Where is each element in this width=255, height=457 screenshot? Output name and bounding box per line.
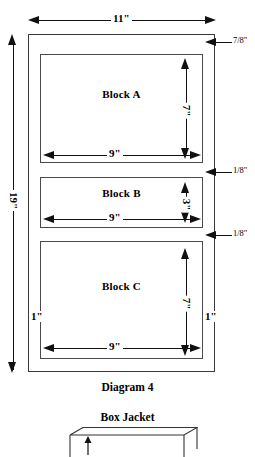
arrowhead-up-block-b-height [181, 182, 189, 193]
arrowhead-left-gap-b-c [205, 231, 216, 239]
dim-label-side-left: 1" [29, 311, 45, 322]
arrowhead-up-overall-height [8, 34, 16, 45]
block-a: Block A [40, 54, 203, 163]
dim-label-gap-b-c: 1/8" [232, 229, 248, 238]
dim-label-overall-width: 11" [111, 13, 132, 24]
leader-line-gap-b-c [215, 235, 232, 236]
dim-label-side-right: 1" [203, 311, 219, 322]
diagram-caption: Diagram 4 [0, 381, 255, 393]
dim-label-top-gap: 7/8" [232, 36, 248, 45]
dim-label-block-b-width: 9" [107, 212, 123, 223]
box-jacket-3d-illustration [58, 427, 198, 457]
box-jacket-caption: Box Jacket [0, 411, 255, 423]
arrowhead-left-block-a-width [43, 151, 54, 159]
arrowhead-down-overall-height [8, 362, 16, 373]
leader-line-gap-a-b [215, 172, 232, 173]
block-c-label: Block C [41, 280, 202, 292]
arrowhead-up-jacket-dim [85, 436, 92, 443]
leader-line-top-gap [215, 42, 232, 43]
arrowhead-right-block-b-width [190, 215, 201, 223]
dim-label-gap-a-b: 1/8" [232, 166, 248, 175]
arrowhead-left-block-b-width [43, 215, 54, 223]
arrowhead-down-block-c-height [181, 345, 189, 356]
arrowhead-down-block-a-height [181, 148, 189, 159]
arrowhead-left-block-c-width [43, 344, 54, 352]
dim-label-block-c-width: 9" [107, 341, 123, 352]
arrowhead-right-overall-width [205, 16, 216, 24]
dim-label-block-a-width: 9" [107, 148, 123, 159]
arrowhead-right-block-c-width [190, 344, 201, 352]
arrowhead-down-block-b-height [181, 212, 189, 223]
arrowhead-left-overall-width [28, 16, 39, 24]
jacket-top-face [70, 428, 197, 436]
dim-label-block-a-height: 7" [181, 103, 192, 119]
arrowhead-up-block-c-height [181, 248, 189, 259]
arrowhead-left-gap-a-b [205, 168, 216, 176]
arrowhead-up-block-a-height [181, 58, 189, 69]
dim-label-overall-height: 19" [8, 190, 19, 211]
block-a-label: Block A [41, 88, 202, 100]
block-b-label: Block B [41, 187, 202, 199]
arrowhead-left-top-gap [205, 38, 216, 46]
dim-label-block-c-height: 7" [181, 296, 192, 312]
dim-label-block-b-height: 3" [181, 197, 192, 213]
arrowhead-right-block-a-width [190, 151, 201, 159]
